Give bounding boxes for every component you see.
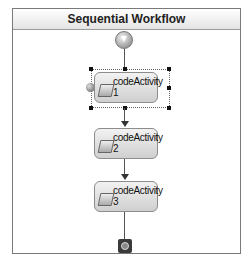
activity-index: 2 — [113, 143, 118, 154]
start-arrow-icon[interactable] — [115, 31, 133, 49]
activity-index: 3 — [113, 196, 118, 207]
workflow-title: Sequential Workflow — [13, 9, 240, 30]
resize-handle[interactable] — [167, 106, 171, 110]
activity-name: codeActivity — [113, 76, 163, 87]
resize-handle[interactable] — [167, 67, 171, 71]
code-activity-icon — [98, 193, 115, 206]
activity-name: codeActivity — [113, 132, 163, 143]
connector-line — [124, 212, 125, 239]
resize-handle[interactable] — [89, 67, 93, 71]
activity-index: 1 — [113, 87, 118, 98]
resize-handle[interactable] — [89, 106, 93, 110]
arrow-down-icon — [121, 121, 129, 127]
arrow-down-icon — [121, 174, 129, 180]
end-stop-icon[interactable] — [118, 239, 132, 253]
activity-codeactivity-3[interactable]: codeActivity3 — [94, 181, 158, 212]
activity-name: codeActivity — [113, 185, 163, 196]
resize-handle[interactable] — [123, 67, 127, 71]
activity-codeactivity-2[interactable]: codeActivity2 — [94, 128, 158, 159]
code-activity-icon — [98, 140, 115, 153]
activity-codeactivity-1[interactable]: codeActivity1 — [94, 72, 158, 103]
resize-handle[interactable] — [167, 86, 171, 90]
code-activity-icon — [98, 84, 115, 97]
